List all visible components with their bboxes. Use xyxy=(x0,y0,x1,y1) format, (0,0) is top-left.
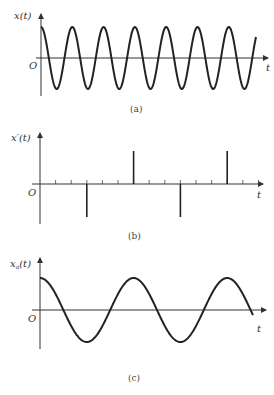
x-axis-label: t xyxy=(257,189,262,200)
y-axis-label: x′(t) xyxy=(11,132,31,143)
caption-b: (b) xyxy=(128,231,141,241)
x-axis-label: t xyxy=(257,323,262,334)
panel-c: xa(t) O t (c) xyxy=(10,258,266,383)
origin-label: O xyxy=(28,313,36,324)
panel-b: x′(t) O t (b) xyxy=(11,132,263,241)
caption-a: (a) xyxy=(130,104,142,114)
panel-a: x(t) O t (a) xyxy=(14,10,271,114)
y-axis-label: x(t) xyxy=(14,10,32,21)
y-axis-label: xa(t) xyxy=(10,258,31,270)
caption-c: (c) xyxy=(128,373,140,383)
origin-label: O xyxy=(28,187,36,198)
origin-label: O xyxy=(29,60,37,71)
sampling-figure: x(t) O t (a) x′(t) O t (b) xa(t) O t (c) xyxy=(0,0,274,395)
x-axis-label: t xyxy=(266,62,271,73)
